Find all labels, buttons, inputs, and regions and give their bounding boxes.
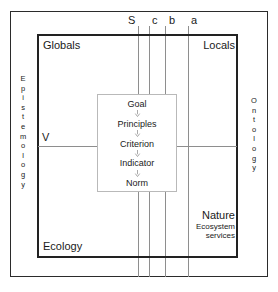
axis-label-b: b xyxy=(169,14,175,26)
letter: o xyxy=(248,125,260,135)
letter: o xyxy=(248,144,260,154)
letter: m xyxy=(17,132,29,142)
axis-label-a: a xyxy=(191,14,197,26)
chain-item-norm: Norm xyxy=(126,178,148,188)
corner-label-globals: Globals xyxy=(43,39,80,52)
letter: o xyxy=(17,141,29,151)
letter: O xyxy=(248,96,260,106)
left-axis-label-epistemology: E p i s t e m o l o g y xyxy=(17,74,29,189)
axis-label-s: S xyxy=(128,14,135,26)
letter: e xyxy=(17,122,29,132)
chain-item-goal: Goal xyxy=(127,99,146,109)
nature-subtitle-line2: services xyxy=(196,231,235,240)
corner-label-nature: Nature Ecosystem services xyxy=(196,209,235,240)
chain-box: Goal Principles Criterion Indicator Norm xyxy=(97,94,177,192)
chain-item-criterion: Criterion xyxy=(120,139,154,149)
nature-title: Nature xyxy=(196,209,235,222)
letter: g xyxy=(17,170,29,180)
letter: i xyxy=(17,93,29,103)
letter: s xyxy=(17,103,29,113)
letter: o xyxy=(17,160,29,170)
letter: p xyxy=(17,84,29,94)
arrow-down-icon xyxy=(134,110,141,117)
letter: t xyxy=(17,112,29,122)
letter: y xyxy=(17,180,29,190)
letter: y xyxy=(248,163,260,173)
diagram-canvas: S c b a Globals Locals Ecology Nature Ec… xyxy=(0,0,278,292)
arrow-down-icon xyxy=(134,150,141,157)
letter: E xyxy=(17,74,29,84)
letter: t xyxy=(248,115,260,125)
letter: g xyxy=(248,154,260,164)
chain-item-indicator: Indicator xyxy=(120,158,155,168)
nature-subtitle-line1: Ecosystem xyxy=(196,222,235,231)
chain-item-principles: Principles xyxy=(117,119,156,129)
letter: l xyxy=(248,134,260,144)
axis-label-c: c xyxy=(152,14,158,26)
v-axis-label: V xyxy=(42,131,49,143)
arrow-down-icon xyxy=(134,170,141,177)
right-axis-label-ontology: O n t o l o g y xyxy=(248,96,260,173)
letter: l xyxy=(17,151,29,161)
corner-label-locals: Locals xyxy=(203,39,235,52)
corner-label-ecology: Ecology xyxy=(43,240,82,253)
arrow-down-icon xyxy=(134,130,141,137)
letter: n xyxy=(248,106,260,116)
